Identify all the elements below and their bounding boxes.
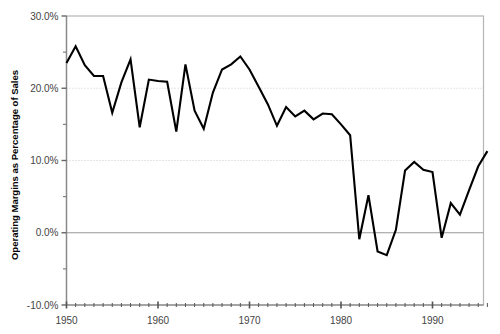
y-tick-label: -10.0%	[27, 300, 59, 311]
x-tick-label: 1980	[330, 315, 353, 326]
y-tick-label: 0.0%	[36, 227, 59, 238]
y-tick-label: 30.0%	[30, 11, 58, 22]
x-tick-label: 1970	[238, 315, 261, 326]
chart-container: 30.0%20.0%10.0%0.0%-10.0% 19501960197019…	[0, 0, 500, 334]
x-tick-label: 1950	[55, 315, 78, 326]
chart-background	[0, 0, 500, 334]
y-axis-title: Operating Margins as Percentage of Sales	[9, 70, 20, 260]
y-tick-label: 20.0%	[30, 83, 58, 94]
y-tick-label: 10.0%	[30, 155, 58, 166]
x-tick-label: 1990	[421, 315, 444, 326]
x-tick-label: 1960	[147, 315, 170, 326]
line-chart: 30.0%20.0%10.0%0.0%-10.0% 19501960197019…	[0, 0, 500, 334]
